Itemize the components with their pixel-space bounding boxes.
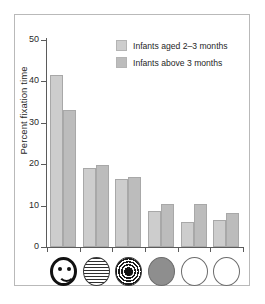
bar-series2 xyxy=(161,204,174,247)
bar-series1 xyxy=(213,220,226,247)
face-icon xyxy=(50,257,77,286)
stimulus-icon-cell xyxy=(210,256,242,288)
y-tick-label: 10 xyxy=(14,201,39,210)
chart-legend: Infants aged 2–3 months Infants above 3 … xyxy=(116,38,242,72)
chart-figure: Percent fixation time 01020304050 Infant… xyxy=(0,0,265,304)
legend-entry-series1: Infants aged 2–3 months xyxy=(116,38,242,53)
y-tick-label-text: 0 xyxy=(17,242,39,251)
stimulus-icon-cell xyxy=(178,256,210,288)
stimulus-icon-cell xyxy=(112,256,144,288)
bar-series2 xyxy=(63,110,76,247)
white-disc-icon-2 xyxy=(213,257,240,286)
y-tick-label-text: 10 xyxy=(17,201,39,210)
stimulus-icon-cell xyxy=(47,256,79,288)
x-tick-mark xyxy=(243,247,244,252)
bar-series1 xyxy=(50,75,63,247)
stripes-icon xyxy=(83,257,110,286)
y-tick-label: 40 xyxy=(14,76,39,85)
bar-series2 xyxy=(96,165,109,247)
bar-series2 xyxy=(226,213,239,247)
y-tick-label-text: 30 xyxy=(17,118,39,127)
y-tick-label: 50 xyxy=(14,35,39,44)
y-tick-label: 30 xyxy=(14,118,39,127)
x-tick-mark xyxy=(47,247,48,252)
legend-entry-series2: Infants above 3 months xyxy=(116,55,242,70)
bar-series1 xyxy=(148,211,161,247)
legend-swatch-series2 xyxy=(116,57,127,68)
y-tick-label: 0 xyxy=(14,242,39,251)
bullseye-icon xyxy=(115,257,142,286)
stimulus-icon-cell xyxy=(80,256,112,288)
bullseye-center-icon xyxy=(125,268,133,276)
stimulus-icon-cell xyxy=(145,256,177,288)
x-tick-mark xyxy=(112,247,113,252)
face-mouth-icon xyxy=(58,273,75,282)
bar-series1 xyxy=(115,179,128,247)
legend-label-series2: Infants above 3 months xyxy=(133,58,222,68)
y-tick-label-text: 20 xyxy=(17,159,39,168)
legend-swatch-series1 xyxy=(116,40,127,51)
y-tick-label-text: 50 xyxy=(17,35,39,44)
bar-series1 xyxy=(83,168,96,247)
x-tick-mark xyxy=(80,247,81,252)
face-eye-right-icon xyxy=(67,267,71,271)
bar-series1 xyxy=(181,222,194,247)
bar-series2 xyxy=(128,177,141,247)
stimulus-icon-row xyxy=(47,256,243,290)
y-tick-label: 20 xyxy=(14,159,39,168)
y-tick-label-text: 40 xyxy=(17,76,39,85)
y-axis-label: Percent fixation time xyxy=(18,46,29,176)
x-tick-mark xyxy=(178,247,179,252)
x-tick-mark xyxy=(210,247,211,252)
legend-label-series1: Infants aged 2–3 months xyxy=(133,41,228,51)
bar-series2 xyxy=(194,204,207,247)
white-disc-icon xyxy=(181,257,208,286)
gray-disc-icon xyxy=(148,257,175,286)
face-eye-left-icon xyxy=(58,267,62,271)
x-tick-mark xyxy=(145,247,146,252)
